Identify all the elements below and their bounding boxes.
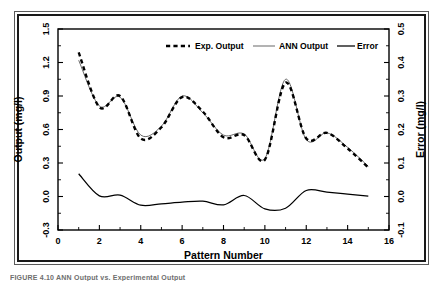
series-exp-output — [79, 52, 369, 167]
y-axis-tick-labels: -0.30.00.30.60.91.21.5 — [41, 23, 51, 238]
figure-container: -0.30.00.30.60.91.21.5 -0.10.00.10.20.30… — [0, 0, 443, 288]
legend-label-2: ANN Output — [279, 41, 328, 51]
x-tick-label: 10 — [260, 236, 270, 246]
series-ann-output — [79, 60, 369, 166]
series-error — [79, 174, 369, 211]
chart-legend: Exp. OutputANN OutputError — [166, 41, 379, 51]
x-tick-label: 2 — [97, 236, 102, 246]
x-axis-title: Pattern Number — [184, 249, 263, 261]
y-tick-label: -0.3 — [41, 222, 51, 238]
y-tick-label: 0.6 — [41, 123, 51, 136]
y-tick-label: 0.0 — [41, 190, 51, 203]
chart-plot-area: -0.30.00.30.60.91.21.5 -0.10.00.10.20.30… — [0, 0, 443, 288]
x-tick-label: 14 — [343, 236, 353, 246]
legend-label-3: Error — [357, 41, 379, 51]
x-axis-tick-labels: 0246810121416 — [55, 236, 394, 246]
y2-tick-label: -0.1 — [396, 222, 406, 238]
y2-tick-label: 0.0 — [396, 190, 406, 203]
y2-axis-title: Error (mg/l) — [414, 101, 426, 158]
y2-tick-label: 0.5 — [396, 23, 406, 36]
y2-tick-label: 0.3 — [396, 90, 406, 103]
y-tick-label: 0.3 — [41, 157, 51, 170]
chart-svg: -0.30.00.30.60.91.21.5 -0.10.00.10.20.30… — [0, 0, 443, 288]
y2-axis-ticks — [384, 29, 389, 230]
y2-axis-tick-labels: -0.10.00.10.20.30.40.5 — [396, 23, 406, 238]
y2-tick-label: 0.2 — [396, 123, 406, 136]
x-tick-label: 16 — [384, 236, 394, 246]
figure-caption: FIGURE 4.10 ANN Output vs. Experimental … — [10, 274, 440, 281]
x-tick-label: 6 — [180, 236, 185, 246]
x-tick-label: 12 — [301, 236, 311, 246]
y-axis-title: Output (mg/l) — [12, 97, 24, 163]
y2-tick-label: 0.4 — [396, 56, 406, 69]
x-tick-label: 0 — [55, 236, 60, 246]
x-tick-label: 8 — [221, 236, 226, 246]
plot-frame — [58, 29, 389, 230]
legend-label-1: Exp. Output — [195, 41, 244, 51]
x-tick-label: 4 — [138, 236, 143, 246]
x-axis-ticks — [58, 225, 389, 230]
y-tick-label: 1.2 — [41, 56, 51, 69]
data-series-layer — [79, 52, 369, 210]
y2-tick-label: 0.1 — [396, 157, 406, 170]
y-axis-ticks — [58, 29, 63, 230]
y-tick-label: 1.5 — [41, 23, 51, 36]
y-tick-label: 0.9 — [41, 90, 51, 103]
